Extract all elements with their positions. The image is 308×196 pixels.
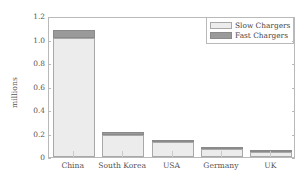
y-tick-mark — [292, 17, 295, 18]
x-tick-label: South Korea — [98, 161, 146, 170]
bar-segment-slow-chargers — [53, 38, 95, 157]
y-axis: 00.20.40.60.81.01.2 — [0, 0, 45, 196]
bar-segment-fast-chargers — [102, 132, 144, 135]
y-tick-label: 0 — [40, 154, 45, 161]
legend-item-slow-chargers: Slow Chargers — [210, 21, 290, 30]
legend-label-slow-chargers: Slow Chargers — [235, 22, 290, 29]
bar-segment-fast-chargers — [250, 150, 292, 152]
x-tick-mark — [221, 151, 222, 157]
bar-segment-slow-chargers — [102, 135, 144, 157]
bar-germany — [201, 147, 243, 157]
y-tick-mark — [48, 158, 51, 159]
x-tick-label: China — [61, 161, 84, 170]
bar-segment-fast-chargers — [53, 30, 95, 38]
y-tick-mark — [48, 41, 51, 42]
legend-swatch-slow-chargers — [210, 22, 232, 29]
y-tick-label: 0.4 — [33, 107, 45, 114]
y-tick-mark — [292, 64, 295, 65]
y-tick-mark — [292, 135, 295, 136]
y-tick-mark — [48, 135, 51, 136]
y-tick-label: 0.8 — [33, 60, 45, 67]
x-tick-label: UK — [264, 161, 276, 170]
bar-usa — [152, 140, 194, 157]
y-tick-label: 1.2 — [33, 13, 45, 20]
legend-label-fast-chargers: Fast Chargers — [235, 32, 288, 39]
bar-segment-fast-chargers — [201, 147, 243, 149]
x-tick-label: Germany — [203, 161, 238, 170]
y-tick-label: 0.6 — [33, 84, 45, 91]
bar-segment-slow-chargers — [250, 152, 292, 157]
bar-segment-slow-chargers — [152, 142, 194, 157]
x-tick-mark — [172, 151, 173, 157]
y-tick-mark — [292, 158, 295, 159]
y-tick-label: 1.0 — [33, 37, 45, 44]
x-tick-mark — [270, 151, 271, 157]
y-tick-mark — [48, 17, 51, 18]
y-tick-mark — [48, 64, 51, 65]
bar-segment-slow-chargers — [201, 149, 243, 157]
bar-south-korea — [102, 132, 144, 157]
bar-chart: millions 00.20.40.60.81.01.2 ChinaSouth … — [0, 0, 308, 196]
legend: Slow Chargers Fast Chargers — [206, 17, 294, 44]
y-tick-mark — [48, 88, 51, 89]
y-tick-mark — [292, 111, 295, 112]
x-tick-mark — [73, 151, 74, 157]
x-tick-mark — [122, 151, 123, 157]
y-tick-label: 0.2 — [33, 131, 45, 138]
bar-segment-fast-chargers — [152, 140, 194, 143]
y-tick-mark — [292, 88, 295, 89]
legend-swatch-fast-chargers — [210, 32, 232, 39]
x-tick-label: USA — [163, 161, 180, 170]
y-tick-mark — [292, 41, 295, 42]
legend-item-fast-chargers: Fast Chargers — [210, 31, 290, 40]
bar-china — [53, 30, 95, 157]
bar-uk — [250, 151, 292, 157]
y-tick-mark — [48, 111, 51, 112]
